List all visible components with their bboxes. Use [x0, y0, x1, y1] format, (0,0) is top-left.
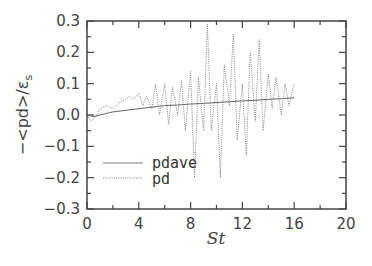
- y-axis-title: −<pd>/εs: [13, 75, 35, 156]
- tick-labels: 0481216200.30.20.10.0−0.1−0.2−0.3: [44, 12, 356, 233]
- svg-text:−<pd>/εs: −<pd>/εs: [13, 75, 35, 156]
- plot-frame: [87, 21, 346, 209]
- x-tick-label: 0: [82, 215, 92, 233]
- series-pdave: [87, 98, 294, 117]
- x-axis-title: St: [207, 228, 226, 248]
- x-tick-label: 12: [233, 215, 252, 233]
- y-tick-label: 0.0: [56, 106, 80, 124]
- x-tick-label: 16: [285, 215, 304, 233]
- chart: 0481216200.30.20.10.0−0.1−0.2−0.3 pdave …: [0, 0, 372, 266]
- y-tick-label: 0.3: [56, 12, 80, 30]
- legend-pd-label: pd: [152, 170, 170, 188]
- x-tick-label: 8: [186, 215, 196, 233]
- y-tick-label: −0.2: [44, 169, 80, 187]
- y-tick-label: 0.2: [56, 43, 80, 61]
- y-tick-label: −0.3: [44, 200, 80, 218]
- y-tick-label: −0.1: [44, 137, 80, 155]
- y-axis-title-main: −<pd>/ε: [13, 81, 32, 156]
- axis-ticks: [87, 21, 346, 209]
- x-tick-label: 20: [336, 215, 355, 233]
- y-tick-label: 0.1: [56, 75, 80, 93]
- y-axis-title-sub: s: [22, 75, 35, 81]
- legend: pdave pd: [103, 154, 197, 188]
- x-tick-label: 4: [134, 215, 144, 233]
